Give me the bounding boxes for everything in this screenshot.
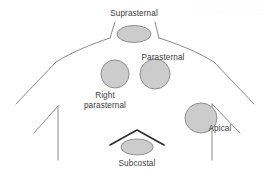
neck-right-line — [155, 22, 159, 38]
acoustic-windows-group — [101, 26, 217, 156]
suprasternal-window-icon[interactable] — [117, 26, 151, 43]
label-parasternal: Parasternal — [142, 53, 185, 62]
shoulder-right-lower-line — [214, 62, 254, 104]
watermark-text: RESOURCE — [194, 4, 264, 16]
left-armpit-diagonal-line — [34, 106, 58, 133]
shoulder-left-lower-line — [16, 62, 56, 104]
torso-figure: Suprasternal Parasternal Right parastern… — [0, 0, 272, 174]
echocardiography-windows-diagram: RESOURCE Suprasternal — [0, 0, 272, 174]
right-parasternal-window-icon[interactable] — [101, 60, 129, 88]
neck-left-line — [110, 22, 115, 38]
label-apical: Apical — [209, 124, 232, 133]
shoulder-left-curve — [56, 38, 110, 62]
label-subcostal: Subcostal — [119, 159, 156, 168]
subcostal-window-icon[interactable] — [121, 139, 153, 155]
parasternal-window-icon[interactable] — [140, 59, 170, 89]
label-right-parasternal-line1: Right — [95, 91, 115, 100]
label-right-parasternal-line2: parasternal — [84, 101, 126, 110]
label-suprasternal: Suprasternal — [110, 9, 158, 18]
